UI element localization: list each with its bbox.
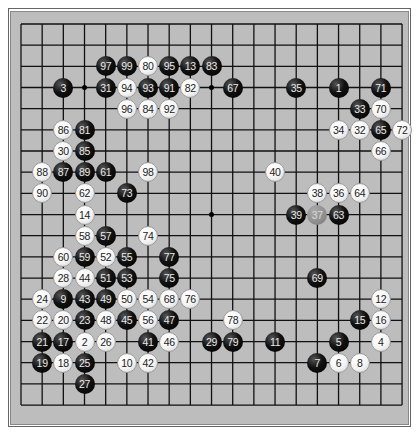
- star-point: [209, 212, 214, 217]
- white-stone[interactable]: 34: [329, 120, 349, 140]
- white-stone[interactable]: 96: [117, 99, 137, 119]
- black-stone[interactable]: 97: [96, 56, 116, 76]
- black-stone[interactable]: 65: [371, 120, 391, 140]
- white-stone[interactable]: 70: [371, 99, 391, 119]
- black-stone[interactable]: 51: [96, 268, 116, 288]
- black-stone[interactable]: 49: [96, 289, 116, 309]
- white-stone[interactable]: 36: [329, 183, 349, 203]
- black-stone[interactable]: 3: [53, 78, 73, 98]
- white-stone[interactable]: 62: [75, 183, 95, 203]
- black-stone[interactable]: 31: [96, 78, 116, 98]
- marked-stone[interactable]: 37: [307, 205, 327, 225]
- white-stone[interactable]: 32: [350, 120, 370, 140]
- black-stone[interactable]: 83: [202, 56, 222, 76]
- black-stone[interactable]: 55: [117, 247, 137, 267]
- black-stone[interactable]: 19: [32, 353, 52, 373]
- black-stone[interactable]: 85: [75, 141, 95, 161]
- white-stone[interactable]: 42: [138, 353, 158, 373]
- black-stone[interactable]: 81: [75, 120, 95, 140]
- white-stone[interactable]: 44: [75, 268, 95, 288]
- black-stone[interactable]: 17: [53, 332, 73, 352]
- white-stone[interactable]: 50: [117, 289, 137, 309]
- black-stone[interactable]: 63: [329, 205, 349, 225]
- black-stone[interactable]: 25: [75, 353, 95, 373]
- white-stone[interactable]: 10: [117, 353, 137, 373]
- black-stone[interactable]: 67: [223, 78, 243, 98]
- white-stone[interactable]: 26: [96, 332, 116, 352]
- black-stone[interactable]: 23: [75, 310, 95, 330]
- white-stone[interactable]: 2: [75, 332, 95, 352]
- black-stone[interactable]: 79: [223, 332, 243, 352]
- white-stone[interactable]: 84: [138, 99, 158, 119]
- black-stone[interactable]: 15: [350, 310, 370, 330]
- white-stone[interactable]: 94: [117, 78, 137, 98]
- black-stone[interactable]: 11: [265, 332, 285, 352]
- black-stone[interactable]: 21: [32, 332, 52, 352]
- black-stone[interactable]: 5: [329, 332, 349, 352]
- black-stone[interactable]: 1: [329, 78, 349, 98]
- black-stone[interactable]: 43: [75, 289, 95, 309]
- white-stone[interactable]: 72: [392, 120, 412, 140]
- white-stone[interactable]: 8: [350, 353, 370, 373]
- white-stone[interactable]: 4: [371, 332, 391, 352]
- black-stone[interactable]: 57: [96, 226, 116, 246]
- black-stone[interactable]: 61: [96, 162, 116, 182]
- white-stone[interactable]: 74: [138, 226, 158, 246]
- black-stone[interactable]: 93: [138, 78, 158, 98]
- white-stone[interactable]: 12: [371, 289, 391, 309]
- black-stone[interactable]: 71: [371, 78, 391, 98]
- white-stone[interactable]: 52: [96, 247, 116, 267]
- black-stone[interactable]: 35: [286, 78, 306, 98]
- white-stone[interactable]: 18: [53, 353, 73, 373]
- white-stone[interactable]: 14: [75, 205, 95, 225]
- black-stone[interactable]: 91: [159, 78, 179, 98]
- white-stone[interactable]: 64: [350, 183, 370, 203]
- black-stone[interactable]: 41: [138, 332, 158, 352]
- white-stone[interactable]: 92: [159, 99, 179, 119]
- black-stone[interactable]: 27: [75, 374, 95, 394]
- white-stone[interactable]: 58: [75, 226, 95, 246]
- star-point: [82, 85, 87, 90]
- black-stone[interactable]: 77: [159, 247, 179, 267]
- black-stone[interactable]: 29: [202, 332, 222, 352]
- star-point: [209, 85, 214, 90]
- white-stone[interactable]: 48: [96, 310, 116, 330]
- black-stone[interactable]: 89: [75, 162, 95, 182]
- black-stone[interactable]: 59: [75, 247, 95, 267]
- black-stone[interactable]: 53: [117, 268, 137, 288]
- black-stone[interactable]: 39: [286, 205, 306, 225]
- white-stone[interactable]: 82: [180, 78, 200, 98]
- black-stone[interactable]: 33: [350, 99, 370, 119]
- white-stone[interactable]: 46: [159, 332, 179, 352]
- white-stone[interactable]: 66: [371, 141, 391, 161]
- white-stone[interactable]: 78: [223, 310, 243, 330]
- white-stone[interactable]: 6: [329, 353, 349, 373]
- black-stone[interactable]: 7: [307, 353, 327, 373]
